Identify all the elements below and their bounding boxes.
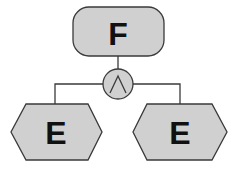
child-event-right-label: E <box>169 115 190 151</box>
child-event-right[interactable]: E <box>133 104 227 160</box>
fault-tree-diagram: F E E <box>0 0 238 169</box>
top-event-node[interactable]: F <box>73 7 164 56</box>
child-event-left-label: E <box>45 115 66 151</box>
child-event-left[interactable]: E <box>11 104 102 160</box>
connector-gate-to-left <box>55 84 103 104</box>
top-event-label: F <box>108 16 128 52</box>
connector-gate-to-right <box>133 84 180 104</box>
and-gate[interactable] <box>103 69 133 99</box>
